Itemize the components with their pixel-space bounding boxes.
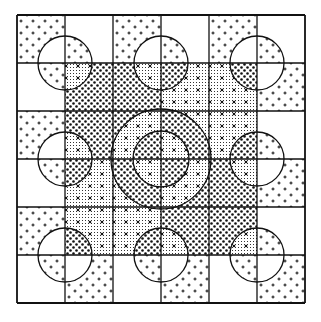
tiling-diagram (0, 0, 321, 322)
